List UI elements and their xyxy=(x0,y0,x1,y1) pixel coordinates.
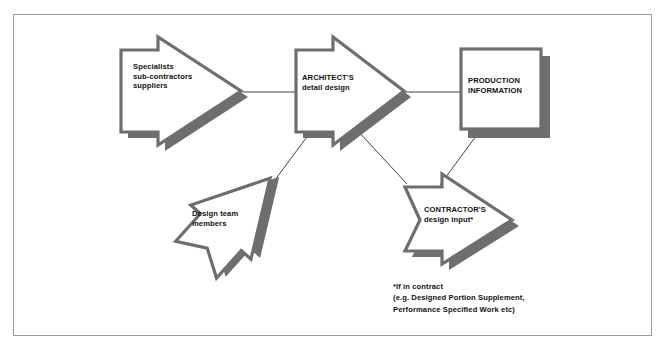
production-box-shape xyxy=(461,49,541,129)
footnote-text: *If in contract (e.g. Designed Portion S… xyxy=(393,281,525,315)
connector-designteam-architect xyxy=(272,130,312,184)
connector-contractor-architect xyxy=(357,130,407,184)
node-design-team[interactable] xyxy=(166,146,309,291)
diagram-root: Specialists sub-contractors suppliers AR… xyxy=(0,0,666,348)
specialists-arrow-shape xyxy=(121,37,241,145)
node-production[interactable] xyxy=(461,49,550,138)
node-architect[interactable] xyxy=(296,37,411,151)
diagram-canvas xyxy=(0,0,666,348)
architect-arrow-shape xyxy=(296,37,404,145)
node-contractor[interactable] xyxy=(405,174,519,270)
node-specialists[interactable] xyxy=(121,37,248,151)
contractor-arrow-shape xyxy=(405,174,512,264)
